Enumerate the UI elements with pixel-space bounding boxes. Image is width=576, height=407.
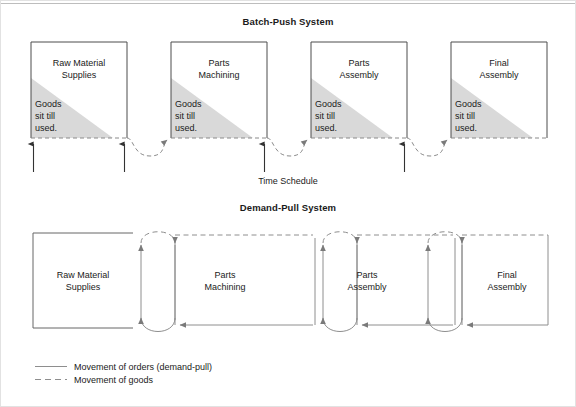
kanban-loop-3 (428, 232, 462, 332)
inventory-note-3-line1: Goods (315, 99, 342, 109)
goods-hop-1 (127, 138, 167, 156)
inventory-note-1-line2: sit till (35, 111, 55, 121)
diagram-canvas: Batch-Push System Raw Material Supplies … (0, 0, 576, 407)
time-schedule-label: Time Schedule (258, 176, 318, 186)
batch-push-title: Batch-Push System (243, 16, 334, 27)
pull-stage-3-label-line2: Assembly (347, 282, 387, 292)
pull-stage-1-label-line2: Supplies (66, 282, 101, 292)
batch-stage-3-label-line1: Parts (348, 58, 370, 68)
demand-pull-section: Demand-Pull System (33, 202, 548, 332)
diagram-page: Batch-Push System Raw Material Supplies … (0, 0, 576, 407)
pull-stage-1-outline (33, 233, 133, 328)
inventory-note-3-line2: sit till (315, 111, 335, 121)
pull-stage-2-outline (175, 235, 315, 325)
pull-stage-4-label-line1: Final (497, 270, 517, 280)
kanban-loop-1-top-arc (141, 232, 175, 243)
kanban-loop-3-top-arc (428, 232, 462, 243)
kanban-loop-2-bottom-arc (323, 318, 357, 332)
inventory-note-2-line3: used. (175, 123, 197, 133)
batch-push-section: Batch-Push System Raw Material Supplies … (31, 16, 547, 186)
pull-stage-4-outline (462, 235, 548, 325)
pull-stage-3-label-line1: Parts (356, 270, 378, 280)
pull-stage-2-label-line2: Machining (204, 282, 245, 292)
goods-hops (127, 138, 447, 156)
inventory-note-3-line3: used. (315, 123, 337, 133)
batch-stage-4-label-line1: Final (489, 58, 509, 68)
batch-stage-2-label-line2: Machining (198, 70, 239, 80)
goods-hop-3 (407, 138, 447, 156)
inventory-notes: Goods sit till used. Goods sit till used… (35, 99, 482, 133)
demand-pull-title: Demand-Pull System (240, 202, 336, 213)
legend: Movement of orders (demand-pull) Movemen… (35, 362, 212, 385)
schedule-push-arrows (34, 144, 405, 172)
kanban-loop-1-bottom-arc (141, 318, 175, 332)
pull-stage-3-outline (357, 235, 455, 325)
inventory-note-1-line1: Goods (35, 99, 62, 109)
batch-stage-3-label-line2: Assembly (339, 70, 379, 80)
inventory-note-1-line3: used. (35, 123, 57, 133)
batch-stage-4-label-line2: Assembly (479, 70, 519, 80)
inventory-note-2-line2: sit till (175, 111, 195, 121)
pull-stage-4-label-line2: Assembly (487, 282, 527, 292)
kanban-loop-2-top-arc (323, 232, 357, 243)
legend-label-orders: Movement of orders (demand-pull) (74, 362, 212, 372)
inventory-note-4-line3: used. (455, 123, 477, 133)
batch-stage-1-label-line2: Supplies (62, 70, 97, 80)
inventory-note-4-line1: Goods (455, 99, 482, 109)
batch-stage-2-label-line1: Parts (208, 58, 230, 68)
inventory-note-4-line2: sit till (455, 111, 475, 121)
goods-hop-2 (267, 138, 307, 156)
batch-stage-1-label-line1: Raw Material (53, 58, 106, 68)
pull-stage-1-label-line1: Raw Material (57, 270, 110, 280)
kanban-loop-1 (141, 232, 175, 332)
pull-stage-2-label-line1: Parts (214, 270, 236, 280)
inventory-note-2-line1: Goods (175, 99, 202, 109)
legend-label-goods: Movement of goods (74, 375, 154, 385)
